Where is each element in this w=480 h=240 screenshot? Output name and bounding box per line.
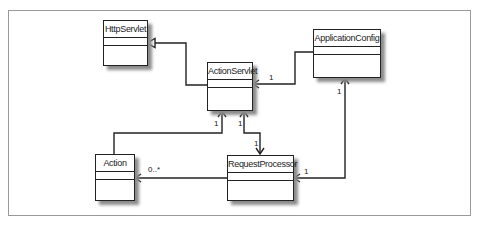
- class-attributes: [314, 47, 380, 55]
- multiplicity-label: 1: [269, 74, 273, 82]
- multiplicity-label: 1: [238, 120, 242, 128]
- multiplicity-label: 1: [214, 120, 218, 128]
- class-applicationconfig: ApplicationConfig: [313, 29, 381, 78]
- class-name: RequestProcessor: [228, 156, 293, 173]
- class-attributes: [228, 173, 293, 181]
- class-attributes: [96, 172, 134, 180]
- class-attributes: [208, 80, 252, 88]
- class-name: HttpServlet: [104, 21, 147, 38]
- multiplicity-label: 1: [304, 168, 308, 176]
- multiplicity-label: 0..*: [148, 166, 160, 174]
- class-actionservlet: ActionServlet: [207, 62, 253, 111]
- class-httpservlet: HttpServlet: [103, 20, 148, 66]
- multiplicity-label: 1: [254, 140, 258, 148]
- class-action: Action: [95, 154, 135, 201]
- class-requestprocessor: RequestProcessor: [227, 155, 294, 201]
- class-attributes: [104, 38, 147, 46]
- class-name: Action: [96, 155, 134, 172]
- class-name: ApplicationConfig: [314, 30, 380, 47]
- class-name: ActionServlet: [208, 63, 252, 80]
- multiplicity-label: 1: [337, 88, 341, 96]
